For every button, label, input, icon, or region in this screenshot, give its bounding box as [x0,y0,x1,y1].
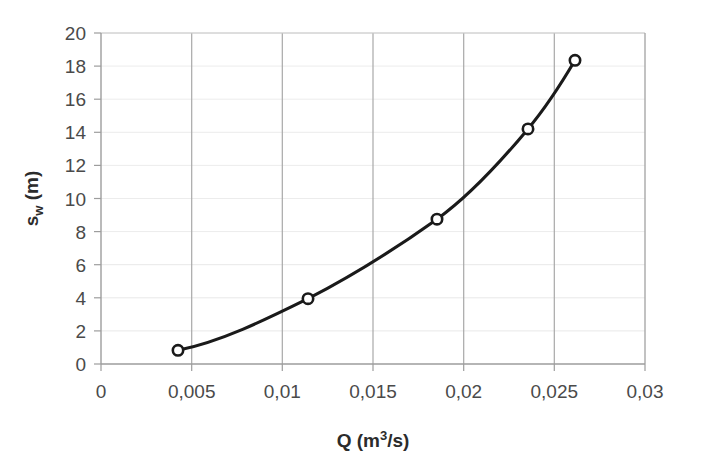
xtick-label-003: 0,03 [627,381,664,402]
plot-area [101,33,645,364]
xtick-label-001: 0,01 [264,381,301,402]
ytick-label-0: 0 [75,354,86,375]
ytick-label-16: 16 [65,89,86,110]
line-chart: 20 18 16 14 12 10 8 6 4 2 0 0 0,005 0,01 [0,0,705,470]
data-point-5 [570,55,580,65]
ytick-label-2: 2 [75,321,86,342]
x-axis-title-tail: /s) [387,430,409,451]
y-axis-title-tail: (m) [21,171,42,206]
x-axis-title-base: Q (m [337,430,380,451]
data-point-2 [303,294,313,304]
ytick-label-12: 12 [65,155,86,176]
ytick-label-14: 14 [65,122,87,143]
data-point-1 [173,345,183,355]
ytick-label-4: 4 [75,288,86,309]
y-axis-title-base: s [21,216,42,227]
xtick-label-0015: 0,015 [349,381,397,402]
xtick-label-0025: 0,025 [531,381,579,402]
xtick-label-002: 0,02 [445,381,482,402]
ytick-label-8: 8 [75,222,86,243]
data-point-3 [432,214,442,224]
ytick-label-20: 20 [65,23,86,44]
xtick-label-0005: 0,005 [168,381,216,402]
x-axis-title: Q (m3/s) [337,428,410,451]
ytick-label-18: 18 [65,56,86,77]
data-point-4 [523,124,533,134]
chart-figure: 20 18 16 14 12 10 8 6 4 2 0 0 0,005 0,01 [0,0,705,470]
ytick-label-10: 10 [65,189,86,210]
xtick-label-0: 0 [96,381,107,402]
x-axis-title-superscript: 3 [380,428,387,443]
ytick-label-6: 6 [75,255,86,276]
